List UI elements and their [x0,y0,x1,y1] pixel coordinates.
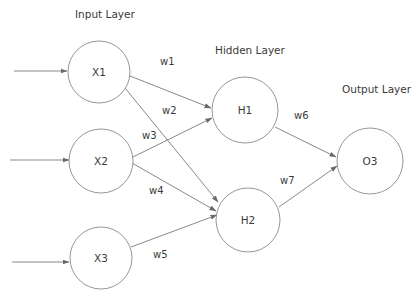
hidden-layer-label: Hidden Layer [215,44,286,56]
weight-label-w4: w4 [149,185,164,196]
node-x3-label: X3 [94,252,108,264]
weight-label-w2: w2 [162,105,177,116]
edge-h2-o3 [279,166,337,207]
neural-network-diagram: Input Layer Hidden Layer Output Layer w1… [0,0,414,302]
node-h1-label: H1 [238,104,253,116]
edge-x3-h2 [131,215,217,247]
edge-h1-o3 [275,127,336,157]
edge-x1-h1 [130,76,211,108]
node-o3-label: O3 [363,155,378,167]
node-h2-label: H2 [241,214,256,226]
weight-label-w5: w5 [153,249,168,260]
weight-label-w3: w3 [142,130,157,141]
node-h2: H2 [216,188,280,252]
input-layer-label: Input Layer [75,8,135,20]
weight-label-w1: w1 [160,56,175,67]
weight-label-w6: w6 [294,110,309,121]
node-h1: H1 [212,77,278,143]
input-arrows [10,71,69,262]
output-layer-label: Output Layer [342,83,412,95]
node-x3: X3 [70,227,132,289]
weight-label-w7: w7 [280,175,295,186]
node-x2: X2 [69,129,133,193]
edge-x2-h2 [132,163,216,211]
node-x1-label: X1 [92,66,106,78]
node-o3: O3 [337,128,403,194]
node-x2-label: X2 [94,155,108,167]
node-x1: X1 [68,41,130,103]
